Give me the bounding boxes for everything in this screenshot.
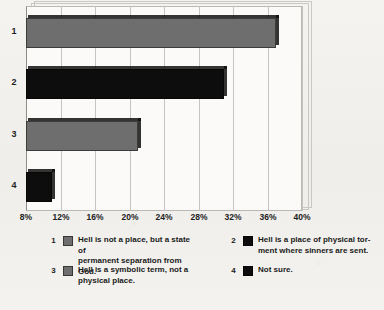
- legend-color-swatch: [243, 236, 253, 246]
- legend-item-number: 2: [228, 235, 239, 246]
- legend-color-swatch: [243, 266, 253, 276]
- bar-side-bevel: [138, 118, 141, 148]
- legend-label-line-2: ment where sinners are sent.: [258, 246, 370, 257]
- x-tick-label: 24%: [155, 212, 172, 222]
- x-tick-label: 16%: [86, 212, 103, 222]
- legend-item-number: 4: [228, 265, 239, 276]
- bar-chart: 1234 8%12%16%20%24%28%32%36%40%: [0, 0, 384, 228]
- bar-row: [26, 169, 302, 202]
- legend-color-swatch: [63, 236, 73, 246]
- x-tick-label: 32%: [224, 212, 241, 222]
- x-tick-label: 20%: [121, 212, 138, 222]
- x-tick-label: 40%: [293, 212, 310, 222]
- bar-face: [26, 18, 276, 48]
- legend-item-4[interactable]: 4Not sure.: [228, 265, 293, 276]
- legend-label-line-1: Hell is not a place, but a state of: [78, 235, 196, 256]
- x-tick-label: 12%: [52, 212, 69, 222]
- bar-side-bevel: [276, 15, 279, 45]
- legend-item-number: 3: [48, 265, 59, 276]
- bar-face: [26, 121, 138, 151]
- bar-face: [26, 172, 52, 202]
- bar-row: [26, 15, 302, 48]
- bar-side-bevel: [224, 66, 227, 96]
- legend-item-label: Hell is a place of physical tor-ment whe…: [258, 235, 370, 256]
- bar-face: [26, 69, 224, 99]
- legend-color-swatch: [63, 266, 73, 276]
- legend-item-3[interactable]: 3Hell is a symbolic term, not aphysical …: [48, 265, 188, 286]
- chart-legend: 1Hell is not a place, but a state ofperm…: [0, 233, 384, 310]
- legend-label-line-1: Hell is a symbolic term, not a: [78, 265, 188, 276]
- category-label-4: 4: [6, 180, 22, 190]
- x-tick-label: 28%: [190, 212, 207, 222]
- bar-2[interactable]: [26, 69, 224, 99]
- legend-item-label: Hell is a symbolic term, not aphysical p…: [78, 265, 188, 286]
- category-label-1: 1: [6, 26, 22, 36]
- legend-label-line-1: Not sure.: [258, 265, 293, 276]
- bar-1[interactable]: [26, 18, 276, 48]
- bar-row: [26, 66, 302, 99]
- x-tick-label: 8%: [20, 212, 32, 222]
- x-tick-label: 36%: [259, 212, 276, 222]
- category-label-3: 3: [6, 129, 22, 139]
- bar-4[interactable]: [26, 172, 52, 202]
- legend-label-line-2: physical place.: [78, 276, 188, 287]
- bar-row: [26, 118, 302, 151]
- legend-item-number: 1: [48, 235, 59, 246]
- legend-label-line-1: Hell is a place of physical tor-: [258, 235, 370, 246]
- legend-item-2[interactable]: 2Hell is a place of physical tor-ment wh…: [228, 235, 370, 256]
- bar-side-bevel: [52, 169, 55, 199]
- category-label-2: 2: [6, 77, 22, 87]
- bar-3[interactable]: [26, 121, 138, 151]
- gridline: [302, 6, 303, 211]
- legend-item-label: Not sure.: [258, 265, 293, 276]
